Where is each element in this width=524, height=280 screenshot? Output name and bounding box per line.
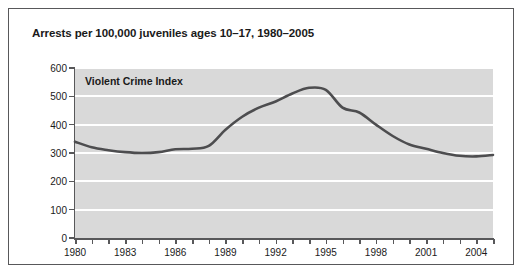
chart-figure: Arrests per 100,000 juveniles ages 10–17… xyxy=(8,8,514,265)
x-axis-tick xyxy=(159,239,161,244)
y-axis-tick-label: 300 xyxy=(21,148,67,159)
y-axis-labels: 0100200300400500600 xyxy=(15,9,67,264)
x-axis-tick xyxy=(242,239,244,244)
violent-crime-index-line xyxy=(75,87,493,156)
x-axis-tick xyxy=(108,239,110,244)
x-axis-tick xyxy=(326,239,328,244)
x-axis-tick xyxy=(209,239,211,244)
plot-area: Violent Crime Index xyxy=(75,68,493,238)
x-axis-tick xyxy=(225,239,227,244)
x-axis-tick-label: 1992 xyxy=(265,247,287,258)
x-axis-tick-label: 2001 xyxy=(415,247,437,258)
y-axis-tick-label: 200 xyxy=(21,176,67,187)
x-axis-tick xyxy=(426,239,428,244)
x-axis-tick xyxy=(393,239,395,244)
x-axis-tick xyxy=(75,239,77,244)
x-axis-tick-label: 1983 xyxy=(114,247,136,258)
x-axis-tick xyxy=(142,239,144,244)
x-axis-line xyxy=(74,238,494,240)
y-axis-tick-label: 600 xyxy=(21,63,67,74)
x-axis-tick-label: 1995 xyxy=(315,247,337,258)
series-chart xyxy=(75,68,493,238)
x-axis-tick xyxy=(359,239,361,244)
x-axis-tick xyxy=(92,239,94,244)
x-axis-tick xyxy=(443,239,445,244)
y-axis-tick-label: 500 xyxy=(21,91,67,102)
x-axis-tick xyxy=(343,239,345,244)
x-axis-tick xyxy=(493,239,495,244)
x-axis-tick xyxy=(292,239,294,244)
x-axis-tick xyxy=(476,239,478,244)
x-axis-tick-label: 1980 xyxy=(64,247,86,258)
y-axis-tick-label: 400 xyxy=(21,119,67,130)
x-axis-tick xyxy=(125,239,127,244)
x-axis-tick xyxy=(175,239,177,244)
x-axis-tick xyxy=(276,239,278,244)
x-axis-tick-label: 2004 xyxy=(465,247,487,258)
x-axis-tick xyxy=(460,239,462,244)
x-axis-tick xyxy=(309,239,311,244)
series-annotation-label: Violent Crime Index xyxy=(85,75,183,87)
x-axis-tick xyxy=(259,239,261,244)
x-axis-tick-label: 1989 xyxy=(214,247,236,258)
y-axis-tick-label: 100 xyxy=(21,204,67,215)
x-axis-tick xyxy=(192,239,194,244)
x-axis-tick xyxy=(409,239,411,244)
y-axis-tick-label: 0 xyxy=(21,233,67,244)
x-axis-tick xyxy=(376,239,378,244)
x-axis-tick-label: 1986 xyxy=(164,247,186,258)
x-axis-tick-label: 1998 xyxy=(365,247,387,258)
page-title: Arrests per 100,000 juveniles ages 10–17… xyxy=(32,27,314,39)
